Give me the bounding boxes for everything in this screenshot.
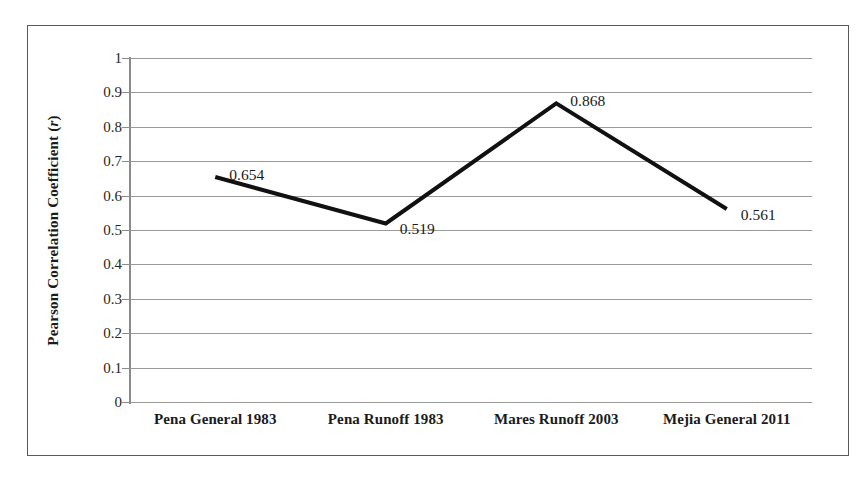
data-point-label: 0.519	[400, 221, 435, 237]
y-axis-tick-label: 0.8	[82, 119, 122, 134]
y-axis-tick-labels: 10.90.80.70.60.50.40.30.20.10	[78, 0, 122, 481]
x-axis-tick-label-3: Mejia General 2011	[642, 411, 813, 435]
y-axis-tick-mark	[122, 368, 129, 369]
y-axis-tick-label: 0.4	[82, 257, 122, 272]
y-axis-tick-label: 0.9	[82, 85, 122, 100]
y-axis-tick-mark	[122, 299, 129, 300]
y-axis-title-symbol: r	[45, 120, 62, 126]
y-axis-title-paren-close: )	[45, 115, 62, 120]
data-point-label: 0.561	[741, 207, 776, 223]
x-axis-tick-labels: Pena General 1983Pena Runoff 1983Mares R…	[130, 411, 812, 435]
y-axis-tick-label: 0.6	[82, 188, 122, 203]
x-axis-tick-label-0: Pena General 1983	[130, 411, 301, 435]
y-axis-tick-mark	[122, 402, 129, 403]
y-axis-tick-label: 0.7	[82, 154, 122, 169]
y-axis-tick-mark	[122, 333, 129, 334]
series-line	[130, 58, 812, 402]
y-axis-title: Pearson Correlation Coefficient ( r )	[40, 58, 66, 403]
x-axis-tick-label-2: Mares Runoff 2003	[471, 411, 642, 435]
data-point-label: 0.868	[570, 93, 605, 109]
y-axis-title-text: Pearson Correlation Coefficient	[45, 136, 62, 346]
y-axis-tick-mark	[122, 196, 129, 197]
y-axis-tick-label: 0	[82, 395, 122, 410]
y-axis-tick-mark	[122, 230, 129, 231]
y-axis-tick-label: 1	[82, 51, 122, 66]
y-axis-tick-mark	[122, 127, 129, 128]
plot-area: 0.6540.5190.8680.561	[130, 58, 812, 402]
y-axis-tick-label: 0.3	[82, 291, 122, 306]
y-axis-tick-label: 0.2	[82, 326, 122, 341]
y-axis-tick-label: 0.5	[82, 223, 122, 238]
gridline	[130, 402, 812, 403]
y-axis-tick-mark	[122, 92, 129, 93]
data-point-label: 0.654	[229, 167, 264, 183]
y-axis-tick-label: 0.1	[82, 360, 122, 375]
y-axis-tick-mark	[122, 264, 129, 265]
x-axis-tick-label-1: Pena Runoff 1983	[301, 411, 472, 435]
y-axis-tick-mark	[122, 161, 129, 162]
chart-figure: Pearson Correlation Coefficient ( r ) 10…	[0, 0, 865, 481]
y-axis-title-paren-open: (	[45, 127, 62, 136]
y-axis-tick-mark	[122, 58, 129, 59]
